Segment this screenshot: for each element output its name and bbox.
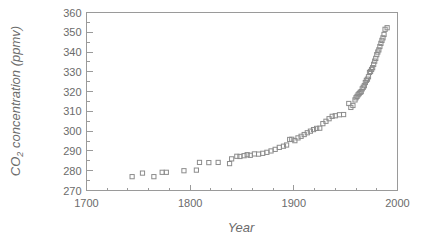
data-point-markers	[130, 26, 389, 179]
data-point	[273, 147, 277, 151]
y-tick-label: 360	[63, 7, 81, 19]
y-axis-title-rest: concentration (ppmv)	[8, 26, 23, 152]
y-tick-label: 300	[63, 125, 81, 137]
data-point	[160, 170, 164, 174]
co2-concentration-chart: 270280290300310320330340350360 170018001…	[0, 0, 429, 241]
data-point	[277, 145, 281, 149]
y-tick-label: 330	[63, 66, 81, 78]
y-axis-ticks	[87, 13, 93, 191]
x-axis-ticks	[87, 185, 398, 191]
x-tick-label: 1800	[178, 197, 202, 209]
data-point	[261, 151, 265, 155]
data-point	[256, 152, 260, 156]
chart-canvas: 270280290300310320330340350360 170018001…	[0, 0, 429, 241]
x-tick-label: 1900	[282, 197, 306, 209]
y-tick-label: 310	[63, 105, 81, 117]
data-point	[265, 150, 269, 154]
x-axis-title: Year	[228, 220, 255, 235]
y-axis-title: CO2 concentration (ppmv)	[8, 26, 25, 176]
x-tick-label: 2000	[385, 197, 409, 209]
y-tick-label: 280	[63, 165, 81, 177]
data-point	[216, 160, 220, 164]
data-point	[252, 152, 256, 156]
data-point	[197, 160, 201, 164]
x-tick-label: 1700	[74, 197, 98, 209]
data-point	[140, 171, 144, 175]
y-axis-title-group: CO2 concentration (ppmv)	[8, 26, 25, 176]
data-point	[341, 112, 345, 116]
y-tick-label: 290	[63, 145, 81, 157]
data-point	[227, 162, 231, 166]
y-tick-label: 270	[63, 185, 81, 197]
data-point	[130, 175, 134, 179]
data-point	[230, 157, 234, 161]
data-point	[182, 169, 186, 173]
y-tick-label: 320	[63, 86, 81, 98]
data-point	[337, 113, 341, 117]
y-axis-title-main: CO	[8, 157, 23, 177]
y-axis-tick-labels: 270280290300310320330340350360	[63, 7, 81, 197]
data-point	[152, 175, 156, 179]
data-point	[207, 161, 211, 165]
y-tick-label: 340	[63, 46, 81, 58]
data-point	[269, 149, 273, 153]
data-point	[164, 170, 168, 174]
data-point	[194, 168, 198, 172]
y-tick-label: 350	[63, 26, 81, 38]
x-axis-tick-labels: 1700180019002000	[74, 197, 409, 209]
